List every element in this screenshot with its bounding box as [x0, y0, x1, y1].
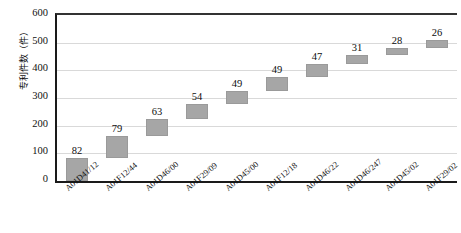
- bar-value-label: 54: [176, 91, 218, 102]
- bar: [66, 158, 88, 181]
- y-tick-label: 100: [2, 146, 48, 156]
- bar-value-label: 49: [216, 78, 258, 89]
- bar: [186, 104, 208, 119]
- bar: [426, 40, 448, 47]
- bar: [386, 48, 408, 56]
- bar-value-label: 79: [96, 123, 138, 134]
- y-tick-label: 600: [2, 8, 48, 18]
- bar: [106, 136, 128, 158]
- bar: [226, 91, 248, 105]
- bar: [146, 119, 168, 136]
- plot-area: 82796354494947312826: [55, 13, 457, 183]
- bar-value-label: 28: [376, 35, 418, 46]
- bar: [266, 77, 288, 91]
- y-tick-label: 300: [2, 91, 48, 101]
- y-tick-label: 500: [2, 36, 48, 46]
- y-tick-label: 0: [2, 174, 48, 184]
- bar-value-label: 63: [136, 106, 178, 117]
- waterfall-chart: 专利件数（件） 6005004003002001000 827963544949…: [0, 0, 461, 233]
- bar-value-label: 47: [296, 51, 338, 62]
- bar: [306, 64, 328, 77]
- bar-value-label: 82: [56, 145, 98, 156]
- bars-layer: 82796354494947312826: [57, 15, 457, 181]
- bar-value-label: 31: [336, 42, 378, 53]
- bar-value-label: 49: [256, 64, 298, 75]
- bar: [346, 55, 368, 64]
- bar-value-label: 26: [416, 27, 458, 38]
- y-tick-label: 200: [2, 119, 48, 129]
- y-tick-label: 400: [2, 63, 48, 73]
- y-axis-tick-labels: 6005004003002001000: [0, 0, 52, 233]
